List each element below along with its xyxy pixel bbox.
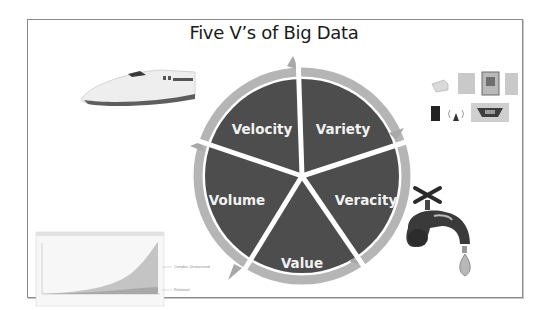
- segment-volume: Volume: [209, 192, 265, 208]
- segment-value: Value: [281, 255, 323, 271]
- segment-veracity: Veracity: [335, 192, 398, 208]
- label-complex-unstructured: Complex, Unstructured: [174, 265, 210, 269]
- phone-icon: [431, 106, 440, 121]
- label-relational: Relational: [174, 288, 190, 292]
- wireless-icon: [449, 110, 464, 121]
- bullet-train-image: [81, 70, 195, 106]
- document-icon: [458, 73, 475, 94]
- hard-drive-icon: [432, 80, 448, 92]
- five-vs-diagram: Velocity Variety Veracity Value Volume: [0, 0, 548, 310]
- document-icon: [505, 73, 518, 95]
- data-growth-chart: Complex, Unstructured Relational: [36, 232, 210, 306]
- file-type-icons: [431, 72, 518, 122]
- segment-velocity: Velocity: [232, 121, 293, 137]
- dripping-faucet-image: [406, 188, 470, 276]
- segment-variety: Variety: [316, 121, 371, 137]
